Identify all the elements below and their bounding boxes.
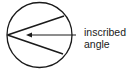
arrowhead-icon [26,33,32,38]
inscribed-angle-label: inscribed angle [84,26,126,50]
label-line-1: inscribed [84,26,126,38]
label-line-2: angle [84,38,126,50]
lower-chord [8,35,64,54]
upper-chord [8,16,65,35]
